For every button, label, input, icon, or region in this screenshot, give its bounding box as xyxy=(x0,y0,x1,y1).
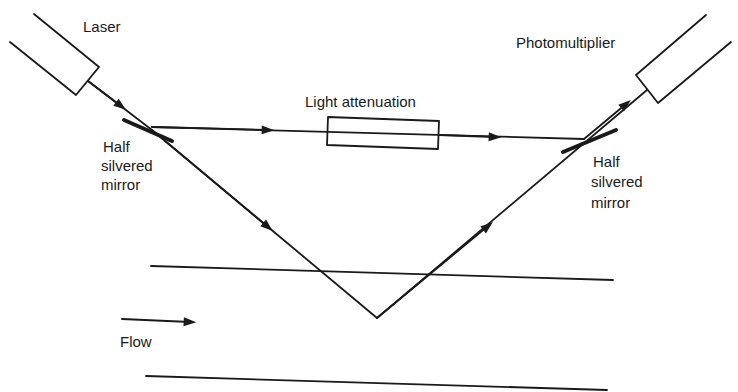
left-mirror-label-line3: mirror xyxy=(101,175,140,194)
left-mirror-label-line2: silvered xyxy=(101,156,153,175)
light-attenuation-label: Light attenuation xyxy=(305,92,416,111)
left-mirror-label-line1: Half xyxy=(103,137,130,156)
laser-label: Laser xyxy=(83,17,121,36)
right-mirror-label-line3: mirror xyxy=(591,193,630,212)
channel-wall-bottom xyxy=(146,376,607,390)
right-mirror-label-line1: Half xyxy=(593,152,620,171)
flow-arrow xyxy=(122,319,190,322)
flow-label: Flow xyxy=(120,332,152,351)
photomultiplier-label: Photomultiplier xyxy=(516,33,615,52)
right-mirror-label-line2: silvered xyxy=(591,172,643,191)
left-mirror xyxy=(124,120,172,141)
photomultiplier-body xyxy=(636,15,731,103)
channel-wall-top xyxy=(151,266,613,280)
